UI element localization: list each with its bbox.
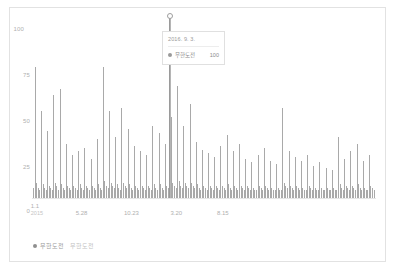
chart-legend: 무한도전 무한도전: [33, 241, 94, 250]
y-axis-tick-25: 25: [12, 164, 30, 170]
y-axis-tick-0: 0: [12, 208, 30, 214]
chart-plot-area: 100 75 50 25 0 1.120155.2810.233.208.15 …: [10, 8, 385, 261]
chart-card: 100 75 50 25 0 1.120155.2810.233.208.15 …: [9, 7, 386, 262]
y-axis-tick-75: 75: [12, 72, 30, 78]
x-axis-tick: 8.15: [217, 210, 229, 216]
legend-label-secondary: 무한도전: [70, 241, 94, 250]
x-axis-tick: 10.23: [124, 210, 139, 216]
legend-color-dot-icon: [33, 244, 37, 248]
legend-label-primary: 무한도전: [40, 241, 64, 250]
legend-item-primary[interactable]: 무한도전: [33, 241, 64, 250]
x-axis-tick-label: 5.28: [76, 210, 88, 216]
x-axis-tick-label: 10.23: [124, 210, 139, 216]
x-axis-baseline: [32, 198, 376, 199]
tooltip-divider: [168, 46, 219, 47]
bar-item[interactable]: [373, 16, 375, 199]
x-axis-tick-label: 1.1: [31, 203, 39, 209]
legend-item-secondary[interactable]: 무한도전: [70, 241, 94, 250]
x-axis-tick-label: 3.20: [170, 210, 182, 216]
y-axis-tick-100: 100: [6, 26, 24, 32]
x-axis-tick: 5.28: [76, 210, 88, 216]
x-axis-tick: 3.20: [170, 210, 182, 216]
series-color-dot-icon: [168, 53, 172, 57]
x-axis-tick-sublabel: 2015: [31, 210, 43, 216]
tooltip-series-name: 무한도전: [175, 51, 204, 59]
tooltip-series-value: 100: [210, 52, 219, 58]
data-tooltip: 2016. 9. 3. 무한도전 100: [162, 31, 225, 65]
x-axis-tick-label: 8.15: [217, 210, 229, 216]
x-axis-tick: 1.12015: [31, 203, 43, 216]
tooltip-series-row: 무한도전 100: [168, 51, 219, 59]
y-axis-tick-50: 50: [12, 118, 30, 124]
tooltip-date: 2016. 9. 3.: [168, 36, 219, 42]
